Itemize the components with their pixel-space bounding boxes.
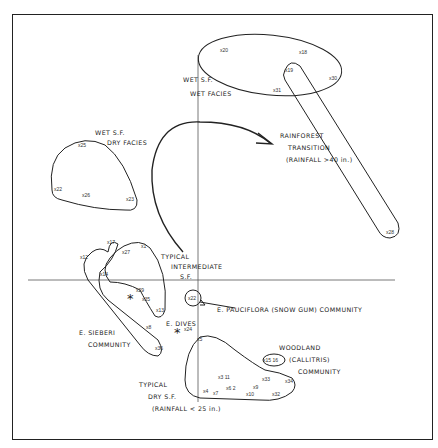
point-13: x13	[156, 307, 164, 313]
point-19: x19	[285, 67, 293, 73]
point-25: x25	[78, 142, 86, 148]
label-wet-facies: WET FACIES	[190, 90, 232, 97]
point-10: x10	[246, 391, 254, 397]
point-5: x5	[197, 336, 203, 342]
label-dry-facies: DRY FACIES	[107, 139, 147, 146]
label-community-1: COMMUNITY	[88, 341, 131, 348]
point-22a: x22	[54, 186, 62, 192]
asterisk-29-icon: *	[127, 291, 134, 306]
dry-facies-outline	[51, 141, 137, 211]
point-7: x7	[213, 390, 219, 396]
point-22b: x22	[188, 295, 196, 301]
label-wet-sf-2: WET S.F.	[95, 129, 125, 136]
label-dry-sf: DRY S.F.	[148, 393, 176, 400]
point-36: x36	[155, 345, 163, 351]
point-29: x29	[136, 287, 144, 293]
point-26: x26	[82, 192, 90, 198]
point-9: x9	[253, 384, 259, 390]
point-35: x35	[142, 296, 150, 302]
label-sf: S.F.	[180, 273, 192, 280]
point-28: x28	[386, 229, 394, 235]
label-intermediate: INTERMEDIATE	[171, 263, 222, 270]
label-typical-dry: TYPICAL	[138, 381, 167, 388]
point-33: x33	[262, 376, 270, 382]
point-18: x18	[299, 49, 307, 55]
label-rainforest: RAINFOREST	[280, 132, 324, 139]
label-wet-sf-1: WET S.F.	[183, 76, 213, 83]
point-8: x8	[146, 324, 152, 330]
asterisk-24-icon: *	[174, 325, 181, 340]
point-3-11: x3 11	[218, 374, 230, 380]
label-community-2: COMMUNITY	[298, 368, 341, 375]
point-14: x14	[100, 271, 108, 277]
label-woodland: WOODLAND	[279, 344, 321, 351]
trend-arrow-arc	[152, 122, 270, 252]
point-1: x1	[141, 243, 147, 249]
point-32: x32	[272, 391, 280, 397]
point-23: x23	[126, 196, 134, 202]
label-e-pauciflora: E. PAUCIFLORA (SNOW GUM) COMMUNITY	[217, 306, 362, 313]
point-20: x20	[220, 47, 228, 53]
label-typical: TYPICAL	[160, 253, 189, 260]
point-12: x12	[80, 254, 88, 260]
label-callitris: (CALLITRIS)	[289, 356, 330, 363]
point-31: x31	[273, 87, 281, 93]
point-30: x30	[329, 75, 337, 81]
label-e-sieberi: E. SIEBERI	[79, 329, 115, 336]
point-6-2: x6 2	[226, 385, 236, 391]
point-4: x4	[203, 388, 209, 394]
point-15-16: x15 16	[263, 357, 278, 363]
label-rainfall-lt25: (RAINFALL < 25 in.)	[152, 405, 221, 412]
point-34: x34	[285, 378, 293, 384]
label-rainfall-gt40: (RAINFALL >40 in.)	[286, 156, 353, 163]
point-27: x27	[122, 249, 130, 255]
point-17: x17	[107, 239, 115, 245]
ordination-diagram: WET S.F. WET FACIES WET S.F. DRY FACIES …	[0, 0, 438, 448]
label-transition: TRANSITION	[287, 144, 330, 151]
point-24: x24	[184, 326, 192, 332]
